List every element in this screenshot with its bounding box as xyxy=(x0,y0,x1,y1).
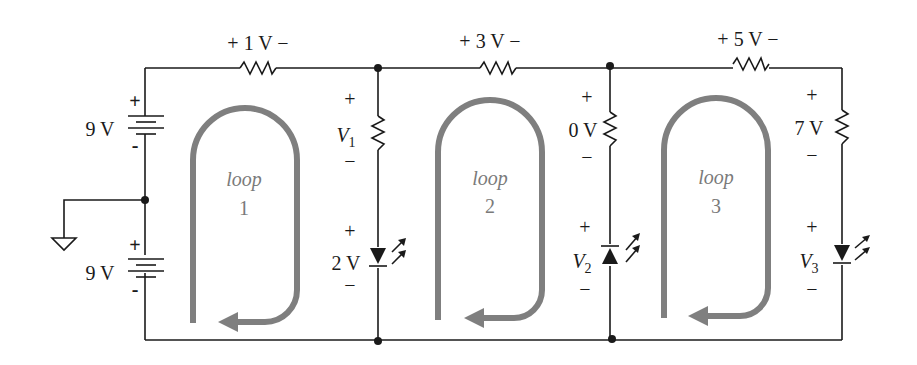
minus-sign: − xyxy=(581,146,592,168)
loop-1: loop 2 1 xyxy=(193,108,297,332)
battery-minus: - xyxy=(132,278,139,300)
branch-3-led: + V3 − xyxy=(799,216,870,300)
plus-sign: + xyxy=(581,86,592,108)
node-dot xyxy=(141,196,149,204)
branch-3-resistor: + 7 V − xyxy=(794,84,848,166)
led-voltage-label: V2 xyxy=(572,250,591,276)
light-emission-arrows-icon xyxy=(855,235,870,260)
minus-sign: − xyxy=(579,278,590,300)
plus-sign: + xyxy=(579,216,590,238)
loop-label: loop xyxy=(698,166,734,189)
wires xyxy=(64,68,842,340)
resistor-voltage-label: + 1 V − xyxy=(227,32,288,54)
branch-1-led: + 2 V − xyxy=(331,220,406,296)
loop-number: 2 xyxy=(485,195,495,217)
plus-sign: + xyxy=(344,88,355,110)
loop-label: loop xyxy=(472,167,508,190)
led-voltage-label: 2 V xyxy=(331,252,361,274)
light-emission-arrows-icon xyxy=(626,233,640,262)
resistor-voltage-label: 0 V xyxy=(568,119,598,141)
resistor-top-3: + 5 V − xyxy=(717,28,778,70)
light-emission-arrows-icon xyxy=(392,238,406,264)
led-icon xyxy=(370,248,386,264)
resistor-voltage-label: + 5 V − xyxy=(717,28,778,50)
loop-3: loop 3 xyxy=(664,98,768,326)
loop-label: loop xyxy=(226,168,262,191)
battery-bottom: + - 9 V xyxy=(85,234,164,300)
resistor-voltage-label: + 3 V − xyxy=(459,30,520,52)
battery-plus: + xyxy=(129,90,140,112)
resistor-voltage-label: 7 V xyxy=(794,117,824,139)
loop-number: 3 xyxy=(711,195,721,217)
node-dot xyxy=(374,337,382,345)
led-voltage-label: V3 xyxy=(799,250,818,276)
plus-sign: + xyxy=(806,216,817,238)
led-icon xyxy=(602,248,618,264)
branch-1-resistor: + V1 − xyxy=(336,88,384,172)
resistor-voltage-label: V1 xyxy=(336,124,355,150)
battery-label: 9 V xyxy=(85,118,115,140)
led-icon xyxy=(834,245,850,261)
branch-2-resistor: + 0 V − xyxy=(568,86,616,168)
branch-2-led: + V2 − xyxy=(572,216,640,300)
plus-sign: + xyxy=(806,84,817,106)
battery-minus: - xyxy=(132,134,139,156)
circuit-diagram: + - 9 V + - 9 V + 1 V − + 3 V − + 5 V − … xyxy=(0,0,917,365)
node-dot xyxy=(606,62,614,70)
minus-sign: − xyxy=(344,274,355,296)
minus-sign: − xyxy=(344,150,355,172)
battery-label: 9 V xyxy=(85,262,115,284)
loop-number: 1 xyxy=(239,197,249,219)
minus-sign: − xyxy=(806,278,817,300)
node-dot xyxy=(374,64,382,72)
plus-sign: + xyxy=(344,220,355,242)
loop-2: loop 2 xyxy=(438,100,542,328)
battery-plus: + xyxy=(129,234,140,256)
node-dot xyxy=(608,335,616,343)
minus-sign: − xyxy=(806,144,817,166)
battery-top: + - 9 V xyxy=(85,90,164,156)
ground-icon xyxy=(52,238,76,250)
